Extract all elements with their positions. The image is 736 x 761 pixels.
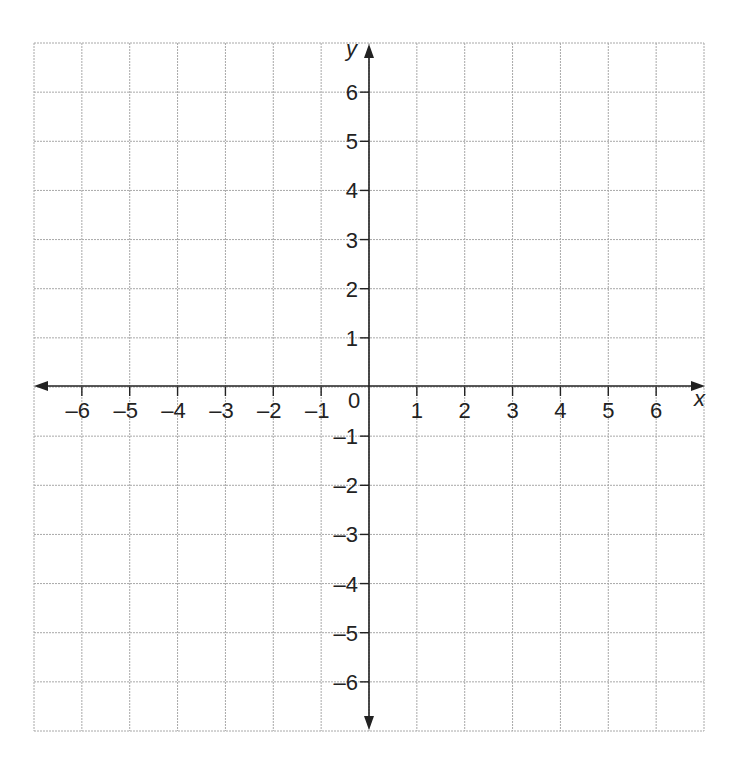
y-tick-label: –5: [334, 621, 358, 646]
x-tick-label: –3: [209, 398, 233, 423]
y-tick-label: –1: [334, 424, 358, 449]
x-axis-left-arrow-icon: [34, 381, 48, 391]
x-axis-label: x: [693, 386, 706, 411]
x-tick-label: –2: [257, 398, 281, 423]
y-tick-label: –3: [334, 522, 358, 547]
y-axis-down-arrow-icon: [364, 716, 374, 730]
x-tick-label: 3: [506, 398, 518, 423]
x-tick-label: 6: [650, 398, 662, 423]
x-tick-label: 2: [459, 398, 471, 423]
y-tick-label: –4: [334, 572, 358, 597]
coordinate-plane: –6–5–4–3–2–1123456654321–1–2–3–4–5–6 x y…: [0, 0, 736, 761]
x-tick-label: –5: [113, 398, 137, 423]
y-tick-label: 1: [346, 326, 358, 351]
y-tick-label: –6: [334, 670, 358, 695]
x-tick-label: –4: [161, 398, 185, 423]
y-axis-label: y: [344, 36, 359, 61]
x-tick-label: –6: [66, 398, 90, 423]
y-axis-up-arrow-icon: [364, 44, 374, 58]
x-tick-label: –1: [305, 398, 329, 423]
y-tick-label: 6: [346, 80, 358, 105]
y-tick-label: –2: [334, 473, 358, 498]
x-tick-label: 1: [411, 398, 423, 423]
y-tick-label: 3: [346, 228, 358, 253]
y-tick-label: 5: [346, 129, 358, 154]
x-tick-label: 5: [602, 398, 614, 423]
x-tick-label: 4: [554, 398, 566, 423]
y-tick-label: 2: [346, 277, 358, 302]
y-tick-label: 4: [346, 178, 358, 203]
origin-label: 0: [348, 388, 360, 413]
